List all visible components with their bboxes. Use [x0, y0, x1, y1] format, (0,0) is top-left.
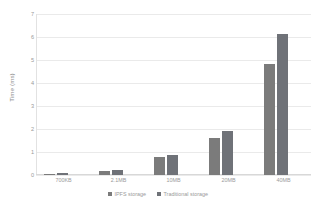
y-axis-tick-label: 2	[20, 126, 34, 132]
x-axis-tick-label: 2.1MB	[111, 177, 127, 183]
bar	[57, 173, 68, 175]
legend-label: IPFS storage	[115, 191, 146, 197]
x-axis-tick-label: 40MB	[276, 177, 290, 183]
gridline	[36, 175, 311, 176]
bar-group	[201, 14, 256, 175]
bar-group	[256, 14, 311, 175]
x-axis-tick-label: 20MB	[221, 177, 235, 183]
y-axis-tick-label: 5	[20, 57, 34, 63]
bar	[277, 34, 288, 175]
legend-item[interactable]: IPFS storage	[108, 191, 146, 197]
y-axis-tick-label: 0	[20, 172, 34, 178]
y-axis-tick-label: 4	[20, 80, 34, 86]
x-axis-tick-label: 700KB	[55, 177, 71, 183]
bar	[154, 157, 165, 175]
bar	[209, 138, 220, 175]
legend-label: Traditional storage	[164, 191, 208, 197]
legend-item[interactable]: Traditional storage	[157, 191, 208, 197]
bar	[222, 131, 233, 175]
bar	[167, 155, 178, 175]
bar-chart: Time (ms) 01234567 700KB2.1MB10MB20MB40M…	[0, 0, 316, 209]
y-axis-title: Time (ms)	[2, 0, 20, 175]
bar	[264, 64, 275, 175]
y-axis-tick-label: 1	[20, 149, 34, 155]
bar	[99, 171, 110, 175]
bar	[112, 170, 123, 175]
y-axis-title-text: Time (ms)	[8, 73, 15, 102]
y-axis-tick-label: 7	[20, 11, 34, 17]
x-axis-tick-labels: 700KB2.1MB10MB20MB40MB	[36, 177, 311, 188]
legend-swatch-icon	[108, 192, 112, 196]
bar-group	[36, 14, 91, 175]
x-axis-tick-label: 10MB	[166, 177, 180, 183]
bar-group	[146, 14, 201, 175]
chart-legend: IPFS storageTraditional storage	[0, 191, 316, 197]
y-axis-tick-labels: 01234567	[20, 10, 34, 178]
bar-group	[91, 14, 146, 175]
bar	[44, 174, 55, 175]
y-axis-tick-label: 3	[20, 103, 34, 109]
legend-swatch-icon	[157, 192, 161, 196]
y-axis-tick-label: 6	[20, 34, 34, 40]
bars-layer	[36, 14, 311, 175]
plot-area	[36, 14, 311, 175]
